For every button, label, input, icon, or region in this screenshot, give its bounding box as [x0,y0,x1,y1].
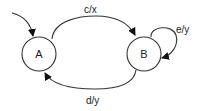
transition-b-to-a [45,70,136,89]
state-diagram: c/x e/y d/y A B [0,0,200,111]
transition-a-to-b [52,16,135,39]
state-b-label: B [140,48,147,60]
state-a-label: A [35,48,43,60]
state-a: A [22,37,56,71]
initial-transition-arrow [12,13,33,36]
state-b: B [127,37,161,71]
transition-label-c-x: c/x [84,4,97,15]
transition-label-d-y: d/y [86,95,99,106]
transition-label-e-y: e/y [176,24,189,35]
